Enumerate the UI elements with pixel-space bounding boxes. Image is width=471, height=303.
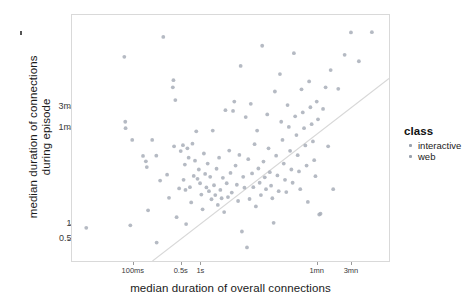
scatter-point bbox=[232, 100, 236, 104]
scatter-point bbox=[255, 129, 259, 133]
scatter-point bbox=[235, 183, 239, 187]
scatter-point bbox=[155, 241, 159, 245]
scatter-point bbox=[300, 87, 304, 91]
scatter-point bbox=[297, 170, 301, 174]
x-tick-mark bbox=[133, 262, 134, 265]
x-tick-label: 1mn bbox=[309, 266, 324, 275]
scatter-point bbox=[277, 189, 281, 193]
scatter-point bbox=[193, 159, 197, 163]
scatter-point bbox=[158, 179, 162, 183]
scatter-point bbox=[264, 187, 268, 191]
scatter-points-layer bbox=[84, 30, 373, 249]
scatter-point bbox=[203, 172, 207, 176]
scatter-point bbox=[349, 31, 353, 35]
scatter-point bbox=[302, 126, 306, 130]
scatter-point bbox=[215, 167, 219, 171]
scatter-point bbox=[244, 115, 248, 119]
scatter-point bbox=[267, 146, 271, 150]
scatter-point bbox=[218, 188, 222, 192]
scatter-point bbox=[141, 154, 145, 158]
scatter-point bbox=[188, 185, 192, 189]
scatter-point bbox=[154, 154, 158, 158]
x-tick-label: 100ms bbox=[122, 266, 145, 275]
scatter-point bbox=[293, 114, 297, 118]
scatter-point bbox=[274, 154, 278, 158]
scatter-point bbox=[279, 120, 283, 124]
y-axis-title-line2: during episode bbox=[40, 13, 53, 261]
x-axis-title: median duration of overall connections bbox=[71, 282, 390, 294]
scatter-point bbox=[239, 64, 243, 68]
scatter-point bbox=[268, 170, 272, 174]
scatter-point bbox=[216, 203, 220, 207]
scatter-point bbox=[144, 159, 148, 163]
scatter-point bbox=[263, 175, 267, 179]
scatter-point bbox=[281, 138, 285, 142]
stray-artifact-mark bbox=[20, 31, 22, 35]
legend: class interactiveweb bbox=[404, 125, 461, 162]
scatter-point bbox=[189, 201, 193, 205]
scatter-point bbox=[196, 177, 200, 181]
scatter-point bbox=[296, 153, 300, 157]
scatter-point bbox=[236, 199, 240, 203]
scatter-point bbox=[227, 149, 231, 153]
scatter-point bbox=[331, 187, 335, 191]
legend-entries: interactiveweb bbox=[404, 140, 461, 162]
scatter-point bbox=[128, 223, 132, 227]
scatter-point bbox=[146, 208, 150, 212]
scatter-point bbox=[259, 193, 263, 197]
scatter-point bbox=[257, 167, 261, 171]
x-tick-label: 3mn bbox=[344, 266, 359, 275]
scatter-point bbox=[336, 87, 340, 91]
scatter-point bbox=[314, 174, 318, 178]
scatter-point bbox=[243, 186, 247, 190]
scatter-point bbox=[283, 178, 287, 182]
scatter-point bbox=[308, 105, 312, 109]
scatter-point bbox=[213, 193, 217, 197]
scatter-point bbox=[199, 193, 203, 197]
scatter-point bbox=[343, 53, 347, 57]
scatter-point bbox=[201, 207, 205, 211]
scatter-point bbox=[289, 168, 293, 172]
scatter-point bbox=[321, 107, 325, 111]
plot-canvas bbox=[72, 15, 389, 261]
scatter-point bbox=[319, 212, 323, 216]
legend-item-label: interactive bbox=[418, 140, 461, 151]
scatter-point bbox=[231, 109, 235, 113]
scatter-point bbox=[234, 164, 238, 168]
scatter-point bbox=[253, 142, 257, 146]
legend-item-label: web bbox=[418, 151, 435, 162]
scatter-point bbox=[287, 125, 291, 129]
scatter-point bbox=[326, 144, 330, 148]
y-axis-title-line1: median duration of connections bbox=[27, 13, 40, 261]
scatter-point bbox=[288, 149, 292, 153]
scatter-point bbox=[225, 181, 229, 185]
scatter-point bbox=[187, 156, 191, 160]
scatter-point bbox=[122, 55, 126, 59]
scatter-point bbox=[207, 189, 211, 193]
scatter-point bbox=[278, 72, 282, 76]
scatter-point bbox=[298, 187, 302, 191]
scatter-point bbox=[262, 160, 266, 164]
scatter-point bbox=[251, 185, 255, 189]
scatter-point bbox=[224, 108, 228, 112]
legend-item-interactive[interactable]: interactive bbox=[406, 140, 461, 151]
scatter-point bbox=[273, 90, 277, 94]
scatter-point bbox=[357, 59, 361, 63]
scatter-point bbox=[324, 85, 328, 89]
scatter-point bbox=[173, 98, 177, 102]
scatter-point bbox=[150, 138, 154, 142]
scatter-point bbox=[165, 173, 169, 177]
scatter-point bbox=[191, 142, 195, 146]
scatter-point bbox=[258, 181, 262, 185]
scatter-point bbox=[260, 44, 264, 48]
scatter-point bbox=[194, 129, 198, 133]
scatter-point bbox=[310, 122, 314, 126]
legend-marker-icon bbox=[406, 152, 415, 161]
y-axis-title: median duration of connections during ep… bbox=[27, 13, 53, 261]
scatter-point bbox=[208, 175, 212, 179]
scatter-point bbox=[184, 222, 188, 226]
x-tick-mark bbox=[317, 262, 318, 265]
scatter-point bbox=[210, 197, 214, 201]
legend-item-web[interactable]: web bbox=[406, 151, 461, 162]
scatter-point bbox=[197, 168, 201, 172]
